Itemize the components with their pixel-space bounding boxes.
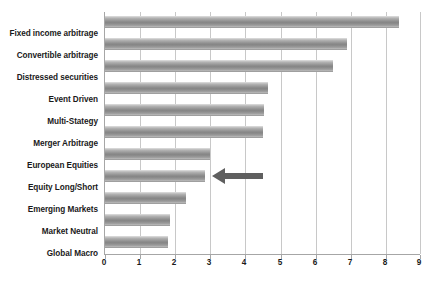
category-label: Market Neutral [42,226,98,238]
category-label: Global Macro [47,248,98,260]
x-tick-label: 0 [92,258,116,267]
bar-convertible-arbitrage [105,38,347,50]
bar-european-equities [105,148,210,160]
category-label: Event Driven [49,94,98,106]
category-label: Emerging Markets [28,204,98,216]
category-label: Multi-Stategy [47,116,98,128]
x-tick-label: 2 [162,258,186,267]
x-tick-label: 7 [338,258,362,267]
bar-merger-arbitrage [105,126,263,138]
category-label: European Equities [27,160,98,172]
gridline [351,12,352,254]
plot-area [104,12,420,255]
x-tick-label: 4 [232,258,256,267]
x-tick-label: 9 [407,258,431,267]
category-label: Equity Long/Short [28,182,98,194]
bar-event-driven [105,82,268,94]
category-label: Merger Arbitrage [33,138,98,150]
x-axis-tick-labels: 0 1 2 3 4 5 6 7 8 9 [104,258,420,272]
bar-global-macro [105,236,168,248]
annotation-arrow-equity-long-short [212,168,263,184]
x-tick-label: 8 [373,258,397,267]
category-axis-labels: Fixed income arbitrage Convertible arbit… [0,12,101,255]
bar-fixed-income-arbitrage [105,16,399,28]
bar-market-neutral [105,214,170,226]
bar-multi-stategy [105,104,264,116]
gridline [420,12,421,254]
category-label: Convertible arbitrage [17,50,98,62]
category-label: Distressed securities [17,72,98,84]
arrow-shaft [223,173,263,179]
x-tick-label: 5 [268,258,292,267]
category-label: Fixed income arbitrage [9,28,98,40]
x-tick-label: 1 [127,258,151,267]
bar-distressed-securities [105,60,333,72]
x-tick-label: 6 [303,258,327,267]
gridline [386,12,387,254]
bar-equity-long-short [105,170,205,182]
x-tick-label: 3 [197,258,221,267]
bar-emerging-markets [105,192,186,204]
bar-chart: Fixed income arbitrage Convertible arbit… [0,0,444,282]
